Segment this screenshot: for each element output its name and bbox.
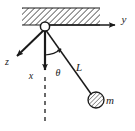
bob-circle xyxy=(88,92,104,108)
pivot-ring xyxy=(40,22,49,31)
x-axis-label: x xyxy=(28,70,34,81)
ceiling-hatch-fill xyxy=(22,8,100,25)
pivot-point xyxy=(40,22,49,31)
pendulum-string xyxy=(45,29,92,95)
angle-theta-label: θ xyxy=(56,67,61,78)
hatched-ceiling-support xyxy=(22,8,100,25)
z-axis-label: z xyxy=(4,56,9,67)
mass-label: m xyxy=(106,94,114,106)
pendulum-bob-mass xyxy=(88,92,104,108)
pendulum-diagram-canvas: y z x θ L m xyxy=(0,0,135,131)
z-axis xyxy=(17,29,45,56)
physics-diagram-figure: y z x θ L m xyxy=(0,0,135,131)
z-axis-arrow xyxy=(17,29,45,56)
y-axis-label: y xyxy=(121,13,127,25)
string-length-label: L xyxy=(75,61,82,73)
angle-theta-arc xyxy=(45,49,61,55)
